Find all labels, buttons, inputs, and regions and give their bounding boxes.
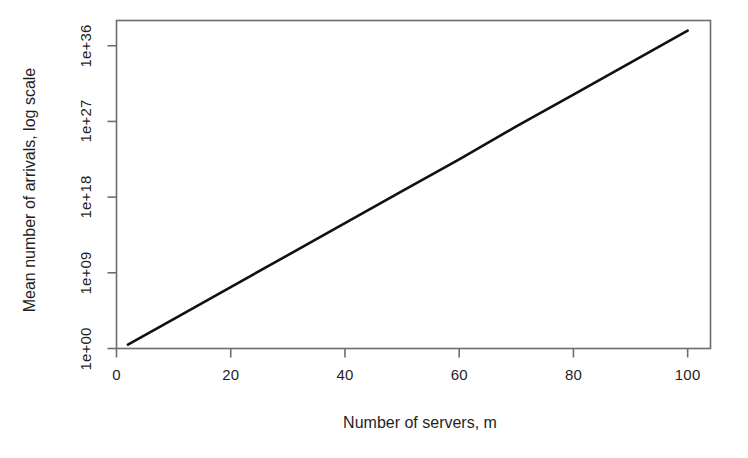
y-tick-label: 1e+18: [77, 176, 94, 219]
x-axis-title: Number of servers, m: [343, 414, 497, 432]
x-axis-ticks: [117, 349, 688, 358]
x-tick-label: 0: [112, 366, 121, 383]
chart-plot-area: [0, 0, 748, 458]
data-series-line: [128, 31, 688, 345]
y-axis-ticks: [108, 46, 117, 349]
x-tick-label: 40: [336, 366, 353, 383]
data-series-group: [128, 31, 688, 345]
x-tick-label: 20: [222, 366, 239, 383]
y-tick-label: 1e+36: [77, 24, 94, 67]
y-axis-title: Mean number of arrivals, log scale: [21, 68, 39, 313]
y-tick-label: 1e+09: [77, 251, 94, 294]
x-tick-label: 80: [565, 366, 582, 383]
x-tick-label: 60: [451, 366, 468, 383]
chart-figure: 1e+001e+091e+181e+271e+36 020406080100 M…: [0, 0, 748, 458]
y-tick-label: 1e+27: [77, 100, 94, 143]
y-tick-label: 1e+00: [77, 327, 94, 370]
x-tick-label: 100: [675, 366, 701, 383]
